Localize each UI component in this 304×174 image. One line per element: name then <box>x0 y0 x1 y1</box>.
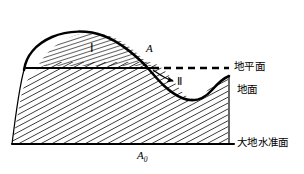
label-ground-surface: 地面 <box>237 84 258 95</box>
label-point-a: A <box>146 43 153 54</box>
terrain-surface-diagram: 地平面 地面 大地水准面 A A0 Ⅰ Ⅱ <box>0 0 304 174</box>
label-point-a0-subscript: 0 <box>144 155 148 164</box>
label-point-a0-letter: A <box>137 149 144 161</box>
label-horizontal-plane: 地平面 <box>234 61 265 72</box>
label-geoid: 大地水准面 <box>237 137 289 148</box>
label-zone-one: Ⅰ <box>90 42 94 54</box>
label-zone-two: Ⅱ <box>177 76 182 87</box>
label-point-a0: A0 <box>137 150 147 164</box>
